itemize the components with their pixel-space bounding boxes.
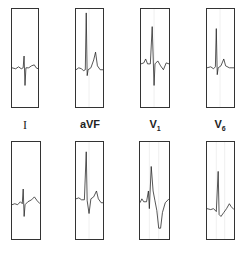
ecg-trace [12,9,38,107]
ecg-strip-top-lead-V1 [140,8,170,108]
ecg-trace [141,9,169,107]
lead-label-aVF: aVF [70,118,110,130]
ecg-strip-bottom-lead-V6 [206,141,235,240]
ecg-trace [12,142,40,239]
ecg-trace [207,142,234,239]
lead-label-I: I [5,118,45,133]
ecg-strip-top-lead-aVF [75,8,104,108]
lead-label-V6: V6 [200,118,240,132]
ecg-trace [76,9,103,107]
ecg-strip-top-lead-V6 [206,8,235,108]
lead-label-V1: V1 [135,118,175,132]
ecg-strip-top-lead-I [11,8,39,108]
ecg-trace [207,9,234,107]
ecg-strip-bottom-lead-aVF [75,141,104,240]
ecg-trace [140,142,169,239]
ecg-trace [76,142,103,239]
ecg-strip-bottom-lead-I [11,141,41,240]
ecg-strip-bottom-lead-V1 [139,141,170,240]
